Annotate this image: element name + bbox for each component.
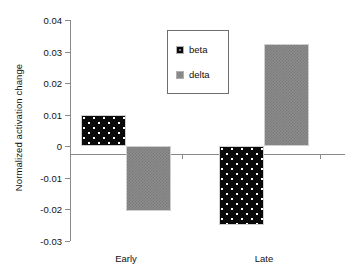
y-axis-title-text: Normalized activation change <box>14 64 25 191</box>
y-tick-label: 0.02 <box>44 78 63 89</box>
bar-chart: Normalized activation change 0.040.030.0… <box>0 0 358 279</box>
y-tick-mark <box>65 146 70 147</box>
baseline-tick <box>182 154 183 159</box>
y-tick-mark <box>65 178 70 179</box>
y-axis-line <box>70 20 71 241</box>
y-tick-mark <box>65 20 70 21</box>
y-tick-mark <box>65 115 70 116</box>
y-axis-title: Normalized activation change <box>6 0 32 255</box>
x-axis-label-early: Early <box>115 253 137 264</box>
legend-label-delta: delta <box>189 69 210 80</box>
bar-delta-early <box>126 146 171 211</box>
legend-item-delta: delta <box>176 69 228 80</box>
y-tick-mark <box>65 52 70 53</box>
baseline-tick <box>320 154 321 159</box>
bar-delta-late <box>264 44 309 146</box>
legend-label-beta: beta <box>189 44 208 55</box>
y-tick-label: -0.01 <box>40 172 62 183</box>
y-tick-label: 0.03 <box>44 46 63 57</box>
x-axis-label-late: Late <box>255 253 274 264</box>
zero-baseline <box>70 154 345 155</box>
legend-item-beta: beta <box>176 44 228 55</box>
bar-beta-early <box>81 115 126 147</box>
y-tick-mark <box>65 241 70 242</box>
y-tick-label: 0 <box>57 141 62 152</box>
y-tick-mark <box>65 83 70 84</box>
bar-beta-late <box>219 146 264 224</box>
y-tick-mark <box>65 209 70 210</box>
y-tick-label: 0.04 <box>44 15 63 26</box>
y-tick-label: -0.03 <box>40 236 62 247</box>
legend-swatch-beta-icon <box>176 46 184 54</box>
legend-swatch-delta-icon <box>176 71 184 79</box>
y-tick-label: -0.02 <box>40 204 62 215</box>
y-tick-label: 0.01 <box>44 109 63 120</box>
legend: beta delta <box>167 30 229 94</box>
